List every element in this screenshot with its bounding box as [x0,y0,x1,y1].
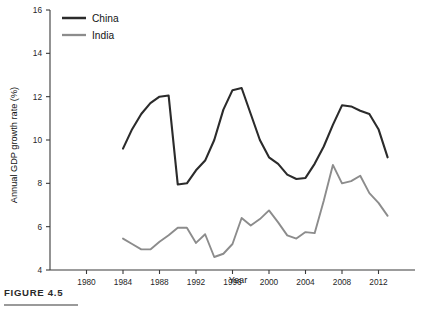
x-tick-label: 2012 [369,277,388,285]
y-tick-label: 12 [33,92,43,102]
figure-4-5: 46810121416 1980198419881992199620002004… [0,0,425,311]
series-group [123,88,388,257]
chart-legend: ChinaIndia [62,13,119,41]
x-tick-label: 1984 [114,277,133,285]
x-tick-label: 1980 [77,277,96,285]
x-tick-label: 2004 [296,277,315,285]
series-line-china [123,88,388,184]
y-tick-label: 16 [33,5,43,15]
legend-label-china: China [92,13,119,24]
y-axis: 46810121416 [33,5,50,275]
gdp-growth-line-chart: 46810121416 1980198419881992199620002004… [0,0,425,285]
figure-caption-label: FIGURE 4.5 [4,287,63,298]
x-tick-label: 1988 [150,277,169,285]
chart-plot-area: 46810121416 1980198419881992199620002004… [0,0,425,285]
y-tick-label: 4 [37,265,42,275]
caption-divider [4,304,78,306]
y-tick-label: 8 [37,178,42,188]
y-tick-label: 14 [33,48,43,58]
x-tick-label: 2000 [260,277,279,285]
y-tick-label: 6 [37,222,42,232]
legend-label-india: India [92,30,114,41]
y-tick-label: 10 [33,135,43,145]
y-tick-group: 46810121416 [33,5,50,275]
x-axis-title: Year [229,275,248,285]
series-line-india [123,165,388,257]
x-tick-label: 1992 [187,277,206,285]
x-tick-label: 2008 [333,277,352,285]
y-axis-title: Annual GDP growth rate (%) [9,87,19,203]
figure-caption-band: FIGURE 4.5 [0,285,425,311]
